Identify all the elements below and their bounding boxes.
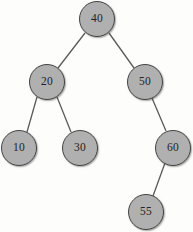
tree-edge xyxy=(109,33,134,68)
tree-node[interactable]: 30 xyxy=(62,130,98,166)
tree-edge xyxy=(153,163,165,196)
tree-node-label: 20 xyxy=(41,76,53,88)
tree-edge xyxy=(57,97,71,132)
tree-node-label: 50 xyxy=(139,76,151,88)
tree-node[interactable]: 55 xyxy=(128,194,164,230)
tree-node-label: 60 xyxy=(167,142,179,154)
tree-edge xyxy=(58,33,85,68)
tree-node[interactable]: 40 xyxy=(79,1,115,37)
tree-node[interactable]: 50 xyxy=(127,64,163,100)
tree-node-label: 30 xyxy=(74,142,86,154)
binary-search-tree-diagram: 40205010306055 xyxy=(0,0,193,232)
tree-node[interactable]: 20 xyxy=(29,64,65,100)
tree-node-label: 55 xyxy=(140,206,152,218)
tree-edge xyxy=(152,98,166,131)
tree-edge xyxy=(27,97,37,132)
tree-node[interactable]: 60 xyxy=(155,130,191,166)
tree-node[interactable]: 10 xyxy=(1,130,37,166)
tree-node-label: 10 xyxy=(13,142,25,154)
tree-node-label: 40 xyxy=(91,13,103,25)
